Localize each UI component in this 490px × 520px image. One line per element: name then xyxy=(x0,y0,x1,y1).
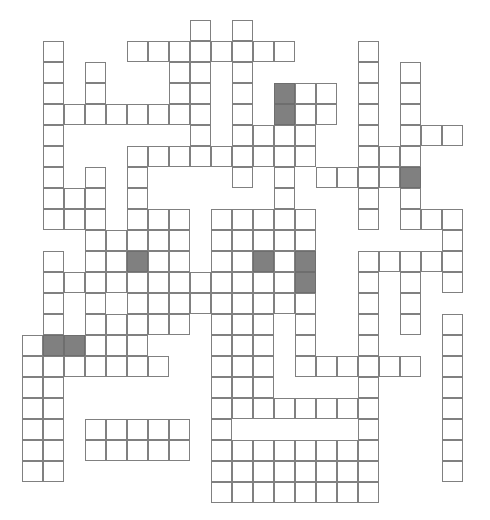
open-cell[interactable] xyxy=(127,104,148,125)
open-cell[interactable] xyxy=(148,356,169,377)
open-cell[interactable] xyxy=(211,272,232,293)
open-cell[interactable] xyxy=(22,419,43,440)
open-cell[interactable] xyxy=(379,146,400,167)
open-cell[interactable] xyxy=(22,440,43,461)
open-cell[interactable] xyxy=(400,251,421,272)
open-cell[interactable] xyxy=(190,83,211,104)
open-cell[interactable] xyxy=(211,377,232,398)
open-cell[interactable] xyxy=(148,230,169,251)
open-cell[interactable] xyxy=(43,83,64,104)
open-cell[interactable] xyxy=(43,125,64,146)
open-cell[interactable] xyxy=(295,482,316,503)
open-cell[interactable] xyxy=(442,125,463,146)
open-cell[interactable] xyxy=(358,377,379,398)
open-cell[interactable] xyxy=(106,440,127,461)
open-cell[interactable] xyxy=(232,356,253,377)
open-cell[interactable] xyxy=(85,167,106,188)
open-cell[interactable] xyxy=(274,461,295,482)
open-cell[interactable] xyxy=(358,356,379,377)
open-cell[interactable] xyxy=(232,230,253,251)
open-cell[interactable] xyxy=(274,230,295,251)
open-cell[interactable] xyxy=(232,272,253,293)
open-cell[interactable] xyxy=(64,188,85,209)
open-cell[interactable] xyxy=(358,188,379,209)
open-cell[interactable] xyxy=(43,398,64,419)
open-cell[interactable] xyxy=(232,209,253,230)
open-cell[interactable] xyxy=(211,419,232,440)
open-cell[interactable] xyxy=(211,41,232,62)
open-cell[interactable] xyxy=(400,209,421,230)
open-cell[interactable] xyxy=(148,293,169,314)
open-cell[interactable] xyxy=(169,62,190,83)
open-cell[interactable] xyxy=(43,419,64,440)
open-cell[interactable] xyxy=(127,314,148,335)
open-cell[interactable] xyxy=(127,272,148,293)
open-cell[interactable] xyxy=(358,62,379,83)
open-cell[interactable] xyxy=(106,230,127,251)
open-cell[interactable] xyxy=(442,356,463,377)
open-cell[interactable] xyxy=(253,461,274,482)
open-cell[interactable] xyxy=(358,83,379,104)
open-cell[interactable] xyxy=(295,314,316,335)
open-cell[interactable] xyxy=(400,62,421,83)
open-cell[interactable] xyxy=(43,440,64,461)
open-cell[interactable] xyxy=(211,398,232,419)
open-cell[interactable] xyxy=(358,419,379,440)
open-cell[interactable] xyxy=(232,125,253,146)
open-cell[interactable] xyxy=(253,356,274,377)
open-cell[interactable] xyxy=(358,335,379,356)
open-cell[interactable] xyxy=(295,335,316,356)
open-cell[interactable] xyxy=(421,125,442,146)
open-cell[interactable] xyxy=(316,482,337,503)
open-cell[interactable] xyxy=(43,314,64,335)
open-cell[interactable] xyxy=(295,461,316,482)
open-cell[interactable] xyxy=(127,356,148,377)
open-cell[interactable] xyxy=(169,230,190,251)
open-cell[interactable] xyxy=(337,356,358,377)
open-cell[interactable] xyxy=(169,146,190,167)
open-cell[interactable] xyxy=(148,209,169,230)
open-cell[interactable] xyxy=(358,209,379,230)
open-cell[interactable] xyxy=(358,125,379,146)
open-cell[interactable] xyxy=(232,440,253,461)
open-cell[interactable] xyxy=(442,335,463,356)
open-cell[interactable] xyxy=(127,188,148,209)
open-cell[interactable] xyxy=(85,251,106,272)
open-cell[interactable] xyxy=(211,440,232,461)
open-cell[interactable] xyxy=(232,146,253,167)
open-cell[interactable] xyxy=(337,461,358,482)
open-cell[interactable] xyxy=(274,251,295,272)
open-cell[interactable] xyxy=(358,272,379,293)
open-cell[interactable] xyxy=(43,461,64,482)
open-cell[interactable] xyxy=(127,419,148,440)
open-cell[interactable] xyxy=(274,167,295,188)
open-cell[interactable] xyxy=(358,461,379,482)
open-cell[interactable] xyxy=(232,83,253,104)
open-cell[interactable] xyxy=(43,251,64,272)
open-cell[interactable] xyxy=(169,41,190,62)
open-cell[interactable] xyxy=(295,209,316,230)
open-cell[interactable] xyxy=(253,293,274,314)
open-cell[interactable] xyxy=(190,272,211,293)
open-cell[interactable] xyxy=(400,125,421,146)
open-cell[interactable] xyxy=(190,62,211,83)
open-cell[interactable] xyxy=(211,335,232,356)
open-cell[interactable] xyxy=(211,461,232,482)
open-cell[interactable] xyxy=(274,272,295,293)
open-cell[interactable] xyxy=(43,41,64,62)
open-cell[interactable] xyxy=(316,440,337,461)
open-cell[interactable] xyxy=(127,335,148,356)
open-cell[interactable] xyxy=(442,461,463,482)
open-cell[interactable] xyxy=(106,251,127,272)
open-cell[interactable] xyxy=(127,230,148,251)
open-cell[interactable] xyxy=(85,440,106,461)
open-cell[interactable] xyxy=(253,230,274,251)
open-cell[interactable] xyxy=(358,251,379,272)
open-cell[interactable] xyxy=(211,356,232,377)
open-cell[interactable] xyxy=(22,461,43,482)
open-cell[interactable] xyxy=(274,146,295,167)
open-cell[interactable] xyxy=(295,146,316,167)
open-cell[interactable] xyxy=(169,83,190,104)
open-cell[interactable] xyxy=(169,419,190,440)
open-cell[interactable] xyxy=(211,146,232,167)
